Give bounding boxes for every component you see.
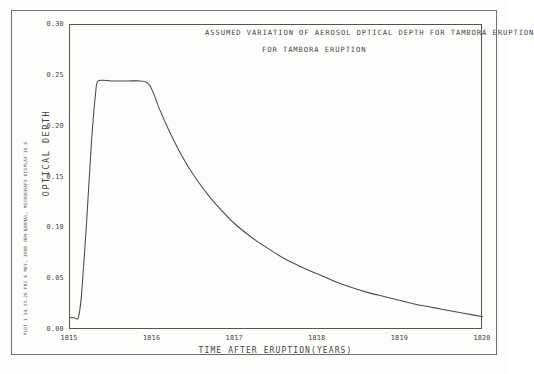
x-tick-label: 1819	[379, 334, 419, 342]
plotter-stamp-text: PLOT 1 14.33.20 FRI 6 MAY, 1988 JBM-NORM…	[23, 119, 28, 359]
x-tick-label: 1818	[297, 334, 337, 342]
x-tick-label: 1815	[49, 334, 89, 342]
x-tick-label: 1820	[462, 334, 502, 342]
data-series-line	[70, 80, 483, 319]
x-axis-title: TIME AFTER ERUPTION(YEARS)	[69, 346, 482, 355]
x-tick-label: 1816	[132, 334, 172, 342]
plot-area	[69, 24, 482, 329]
x-tick-label: 1817	[214, 334, 254, 342]
plot-canvas	[70, 25, 483, 330]
